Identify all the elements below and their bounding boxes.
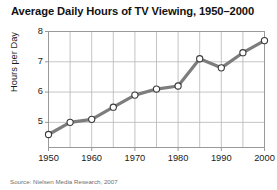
y-axis-tick-label: 6: [27, 86, 43, 96]
data-point-marker: [45, 131, 51, 137]
data-point-marker: [67, 119, 73, 125]
x-axis-tick-label: 2000: [248, 153, 277, 163]
data-point-marker: [218, 65, 224, 71]
data-point-marker: [175, 83, 181, 89]
x-axis-tick-label: 1950: [32, 153, 66, 163]
x-axis-tick-label: 1960: [75, 153, 109, 163]
x-axis-tick-label: 1970: [118, 153, 152, 163]
data-point-marker: [240, 50, 246, 56]
y-axis-tick-label: 8: [27, 26, 43, 36]
x-axis-tick-label: 1990: [204, 153, 238, 163]
data-point-marker: [261, 37, 267, 43]
chart-figure: Average Daily Hours of TV Viewing, 1950–…: [0, 0, 276, 190]
y-axis-tick-label: 5: [27, 116, 43, 126]
data-point-marker: [89, 116, 95, 122]
data-point-marker: [153, 86, 159, 92]
source-note: Source: Nielsen Media Research, 2007: [10, 178, 118, 185]
data-point-marker: [110, 104, 116, 110]
y-axis-tick-label: 7: [27, 56, 43, 66]
data-point-marker: [197, 56, 203, 62]
data-point-marker: [132, 92, 138, 98]
x-axis-tick-label: 1980: [161, 153, 195, 163]
